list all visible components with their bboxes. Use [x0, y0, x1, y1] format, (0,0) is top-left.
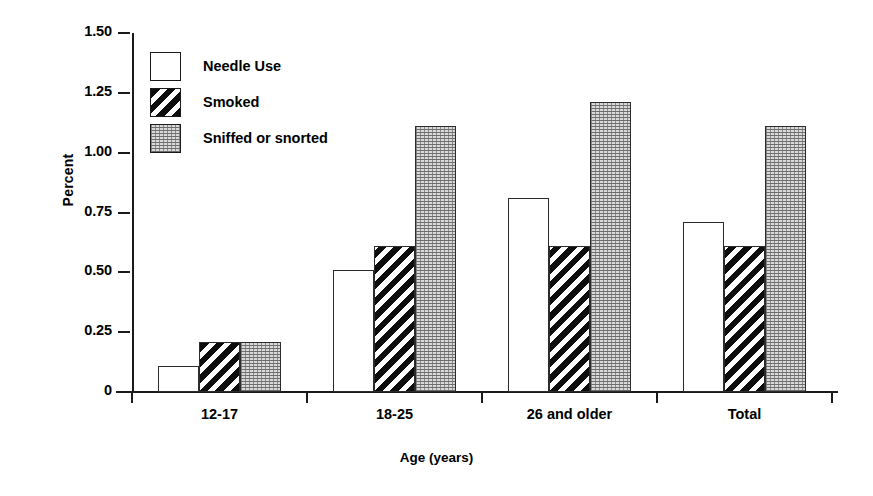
bar [508, 198, 549, 392]
legend-item: Smoked [150, 84, 328, 120]
bar [724, 246, 765, 392]
y-tick-label: 0.25 [36, 322, 112, 338]
y-tick-mark [118, 391, 130, 393]
bar [590, 102, 631, 392]
bar [415, 126, 456, 392]
legend-swatch-stipple [150, 124, 181, 153]
bar [158, 366, 199, 392]
x-tick-mark [831, 392, 833, 403]
bar [765, 126, 806, 392]
bar [199, 342, 240, 392]
x-tick-mark [656, 392, 658, 403]
bar [333, 270, 374, 392]
legend-item: Needle Use [150, 48, 328, 84]
legend-label: Needle Use [203, 58, 281, 74]
x-tick-label-1: 18-25 [376, 406, 413, 422]
y-tick-label: 0.75 [36, 203, 112, 219]
x-tick-mark [306, 392, 308, 403]
bar [683, 222, 724, 392]
x-axis-title: Age (years) [0, 450, 873, 465]
x-tick-label-3: Total [728, 406, 762, 422]
y-tick-mark [118, 271, 130, 273]
chart-legend: Needle UseSmokedSniffed or snorted [150, 48, 328, 156]
y-tick-mark [118, 32, 130, 34]
y-axis-title: Percent [60, 120, 76, 240]
x-tick-label-2: 26 and older [527, 406, 612, 422]
legend-swatch-plain [150, 52, 181, 81]
x-tick-label-0: 12-17 [201, 406, 238, 422]
y-tick-label: 1.50 [36, 23, 112, 39]
y-tick-label: 0 [36, 382, 112, 398]
y-tick-mark [118, 331, 130, 333]
legend-swatch-hatch [150, 88, 181, 117]
legend-label: Sniffed or snorted [203, 130, 328, 146]
bar [374, 246, 415, 392]
y-tick-label: 1.25 [36, 83, 112, 99]
y-tick-label: 0.50 [36, 262, 112, 278]
bar [549, 246, 590, 392]
legend-item: Sniffed or snorted [150, 120, 328, 156]
bar [240, 342, 281, 392]
y-tick-label: 1.00 [36, 143, 112, 159]
y-tick-mark [118, 212, 130, 214]
y-tick-mark [118, 92, 130, 94]
y-tick-mark [118, 152, 130, 154]
bar-chart: Percent 00.250.500.751.001.251.50 12-171… [0, 0, 873, 496]
x-tick-mark [131, 392, 133, 403]
legend-label: Smoked [203, 94, 259, 110]
x-tick-mark [481, 392, 483, 403]
